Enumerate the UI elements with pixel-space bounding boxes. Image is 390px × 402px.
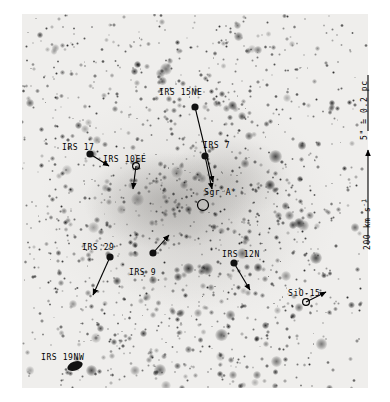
source-label-irs-29: IRS 29 (82, 243, 115, 252)
source-label-irs-17: IRS 17 (62, 143, 95, 152)
source-label-irs-12n: IRS 12N (222, 250, 260, 259)
source-label-sgr-a-star: Sgr A* (204, 188, 237, 197)
starfield-image (22, 14, 368, 388)
source-label-irs-19nw: IRS 19NW (41, 353, 84, 362)
source-label-irs-10ee: IRS 10EE (103, 155, 146, 164)
source-label-sio-15: SiO-15 (288, 289, 321, 298)
velocity-scale-label: 200 km s-1 (360, 198, 372, 250)
source-label-irs-7: IRS 7 (203, 141, 230, 150)
star-layer (22, 14, 368, 388)
proper-motion-figure: IRS 15NEIRS 7IRS 17IRS 10EESgr A*IRS 29I… (0, 0, 390, 402)
source-label-irs-9: IRS 9 (129, 268, 156, 277)
velocity-scale-value: 200 km s (363, 207, 372, 250)
angular-scale-label: 5" = 0.2 pc (360, 80, 369, 140)
velocity-scale-exponent: -1 (360, 198, 367, 206)
source-label-irs-15ne: IRS 15NE (159, 88, 202, 97)
